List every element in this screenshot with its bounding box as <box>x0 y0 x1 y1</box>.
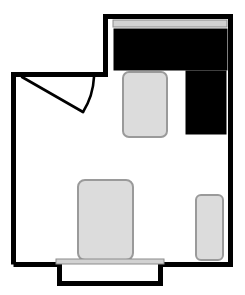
wardrobe-right[interactable] <box>186 71 226 134</box>
bed-top[interactable] <box>114 29 227 70</box>
floor-plan-drawing <box>0 0 245 295</box>
top-window <box>113 20 227 27</box>
dresser-lower-right[interactable] <box>196 195 223 260</box>
bed-center[interactable] <box>78 180 133 260</box>
bay-window-sill <box>56 259 164 264</box>
floor-plan-container <box>0 0 245 295</box>
nightstand-upper[interactable] <box>123 72 167 137</box>
